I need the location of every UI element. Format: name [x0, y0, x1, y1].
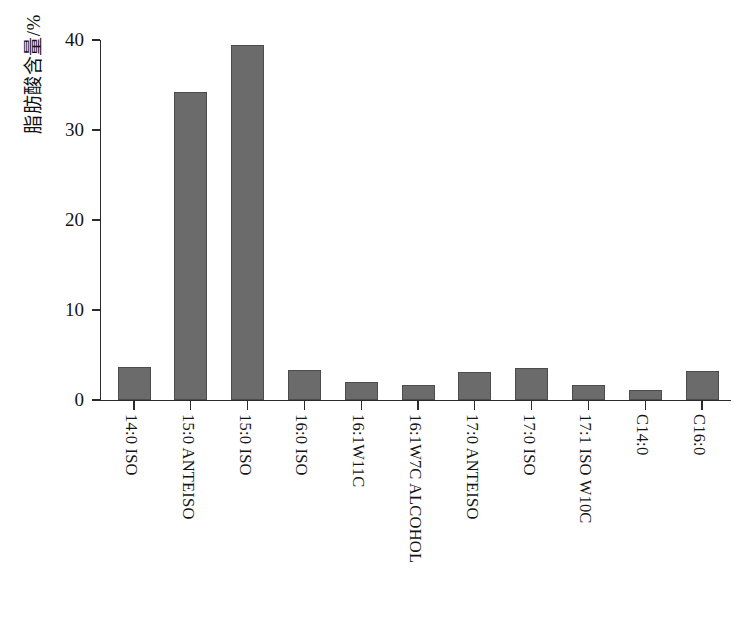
bar	[174, 92, 207, 400]
x-axis-tick-label: 16:0 ISO	[293, 414, 310, 614]
x-axis-tick	[361, 401, 362, 410]
bar	[572, 385, 605, 400]
x-axis-tick-label: 16:1W7C ALCOHOL	[407, 414, 424, 614]
x-axis-tick-label: 17:0 ISO	[521, 414, 538, 614]
y-axis-tick-label: 10	[32, 300, 84, 319]
y-axis-tick-label-text: 40	[38, 30, 84, 49]
y-axis-title: 脂肪酸含量/%	[14, 0, 48, 164]
y-axis-tick-label: 0	[32, 390, 84, 409]
y-axis-tick-label: 20	[32, 210, 84, 229]
bar	[458, 372, 491, 400]
bar	[629, 390, 662, 400]
x-axis-tick	[190, 401, 191, 410]
bar	[402, 385, 435, 400]
y-axis-tick-label: 30	[32, 120, 84, 139]
y-axis-line	[100, 40, 101, 401]
x-axis-tick-label: C14:0	[634, 414, 651, 614]
bar	[515, 368, 548, 400]
x-axis-tick	[701, 401, 702, 410]
x-axis-tick-label: C16:0	[691, 414, 708, 614]
x-axis-tick	[645, 401, 646, 410]
bar	[118, 367, 151, 400]
y-axis-tick-label: 40	[32, 30, 84, 49]
x-axis-tick	[531, 401, 532, 410]
y-axis-tick-label-text: 0	[38, 390, 84, 409]
x-axis-tick	[247, 401, 248, 410]
bar-chart-figure: 脂肪酸含量/% 010203040 14:0 ISO15:0 ANTEISO15…	[0, 0, 736, 619]
x-axis-tick	[588, 401, 589, 410]
x-axis-line	[100, 400, 731, 401]
y-axis-tick	[92, 39, 100, 40]
x-axis-tick	[474, 401, 475, 410]
x-axis-tick-label: 17:1 ISO W10C	[577, 414, 594, 614]
x-axis-tick-label: 14:0 ISO	[123, 414, 140, 614]
bar	[231, 45, 264, 401]
y-axis-tick	[92, 219, 100, 220]
y-axis-tick	[92, 129, 100, 130]
bar	[288, 370, 321, 400]
x-axis-tick	[133, 401, 134, 410]
x-axis-tick-label: 15:0 ANTEISO	[180, 414, 197, 614]
y-axis-tick-label-text: 10	[38, 300, 84, 319]
x-axis-tick	[304, 401, 305, 410]
x-axis-tick-label: 17:0 ANTEISO	[464, 414, 481, 614]
y-axis-tick-label-text: 30	[38, 120, 84, 139]
y-axis-tick	[92, 309, 100, 310]
bar	[345, 382, 378, 400]
y-axis-tick-label-text: 20	[38, 210, 84, 229]
y-axis-tick	[92, 399, 100, 400]
bar	[686, 371, 719, 400]
x-axis-tick	[417, 401, 418, 410]
x-axis-tick-label: 16:1W11C	[350, 414, 367, 614]
x-axis-tick-label: 15:0 ISO	[237, 414, 254, 614]
